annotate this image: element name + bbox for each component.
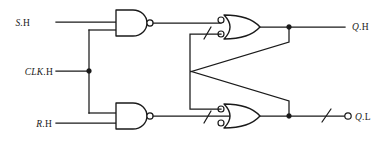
output-label-ql: Q.L bbox=[355, 112, 371, 122]
gate-nand-bottom bbox=[116, 103, 153, 129]
input-label-r: R.H bbox=[35, 119, 52, 129]
output-label-qh: Q.H bbox=[352, 22, 369, 32]
logic-diagram-canvas: S.H CLK.H R.H Q.H Q.L bbox=[0, 0, 384, 142]
output-label-qh-upright: .H bbox=[359, 22, 369, 32]
nand-bottom-output-bubble bbox=[147, 113, 153, 119]
input-label-s: S.H bbox=[15, 18, 30, 28]
nand-top-output-bubble bbox=[147, 20, 153, 26]
or-top-body bbox=[224, 15, 260, 39]
output-label-qh-italic: Q bbox=[352, 22, 359, 32]
input-label-r-italic: R bbox=[35, 119, 42, 129]
input-label-clk-italic: CLK bbox=[25, 67, 44, 77]
junction-dot-clk bbox=[87, 69, 92, 74]
gate-or-top bbox=[218, 15, 260, 39]
polarity-slash-or-top-input bbox=[204, 27, 211, 39]
input-label-clk-upright: .H bbox=[43, 67, 53, 77]
input-label-r-upright: .H bbox=[42, 119, 52, 129]
ql-output-bubble bbox=[345, 113, 351, 119]
polarity-slash-or-bottom-input bbox=[204, 111, 211, 123]
output-label-ql-italic: Q bbox=[355, 112, 362, 122]
or-bottom-input-bubble-lower bbox=[218, 120, 224, 126]
nand-top-body bbox=[116, 10, 147, 36]
input-label-s-upright: .H bbox=[20, 18, 30, 28]
output-label-ql-upright: .L bbox=[362, 112, 371, 122]
or-bottom-body bbox=[224, 104, 260, 128]
circuit-svg: S.H CLK.H R.H Q.H Q.L bbox=[0, 0, 384, 142]
gate-nand-top bbox=[116, 10, 153, 36]
nand-bottom-body bbox=[116, 103, 147, 129]
or-top-input-bubble-upper bbox=[218, 17, 224, 23]
input-label-clk: CLK.H bbox=[25, 67, 53, 77]
